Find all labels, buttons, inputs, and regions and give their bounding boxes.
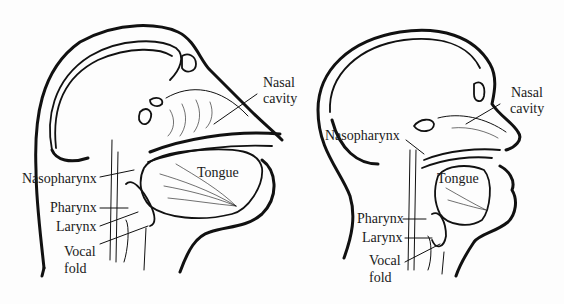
right-label-vocal-fold-line1: Vocal — [369, 254, 401, 268]
left-label-nasal-cavity-line1: Nasal — [263, 76, 295, 90]
left-label-vocal-fold-line1: Vocal — [64, 245, 96, 259]
right-label-pharynx: Pharynx — [357, 212, 404, 226]
left-label-vocal-fold-line2: fold — [64, 262, 87, 276]
right-label-vocal-fold-line2: fold — [369, 271, 392, 285]
left-label-tongue: Tongue — [197, 166, 239, 180]
right-label-larynx: Larynx — [362, 231, 402, 245]
left-label-larynx: Larynx — [56, 220, 96, 234]
right-label-nasopharynx: Nasopharynx — [325, 129, 400, 143]
anatomy-figure: Nasal cavity Tongue Nasopharynx Pharynx … — [0, 0, 564, 304]
left-label-nasal-cavity-line2: cavity — [263, 92, 297, 106]
right-label-tongue: Tongue — [437, 172, 479, 186]
left-label-nasopharynx: Nasopharynx — [22, 172, 97, 186]
right-label-nasal-cavity-line1: Nasal — [511, 86, 543, 100]
right-label-nasal-cavity-line2: cavity — [510, 102, 544, 116]
left-label-pharynx: Pharynx — [50, 201, 97, 215]
